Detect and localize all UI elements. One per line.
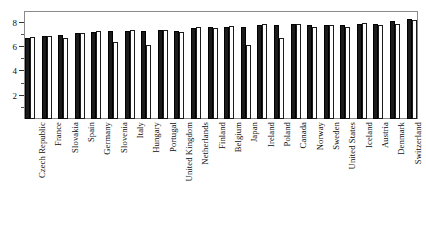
x-axis-label-cell: Finland bbox=[205, 122, 221, 238]
bar-group bbox=[324, 12, 334, 119]
x-axis-label-cell: Germany bbox=[90, 122, 106, 238]
bars-layer bbox=[25, 12, 417, 119]
bar-group bbox=[25, 12, 35, 119]
bar-series-2 bbox=[279, 38, 284, 119]
bar-series-2 bbox=[362, 23, 367, 119]
bar-series-2 bbox=[163, 30, 168, 119]
x-axis-label-cell: France bbox=[41, 122, 57, 238]
bar-group bbox=[108, 12, 118, 119]
y-tick-label: 8 bbox=[13, 18, 18, 27]
x-axis-label-cell: Italy bbox=[123, 122, 139, 238]
bar-series-2 bbox=[146, 45, 151, 119]
bar-group bbox=[390, 12, 400, 119]
bar-series-2 bbox=[113, 42, 118, 119]
x-axis-label-cell: Spain bbox=[74, 122, 90, 238]
x-axis-label-cell: Belgium bbox=[221, 122, 237, 238]
bar-series-2 bbox=[179, 32, 184, 119]
x-axis-label-cell: Iceland bbox=[352, 122, 368, 238]
bar-series-2 bbox=[296, 24, 301, 119]
bar-group bbox=[91, 12, 101, 119]
bar-chart: 2468 Czech RepublicFranceSlovakiaSpainGe… bbox=[0, 0, 426, 240]
x-axis-label-cell: Netherlands bbox=[188, 122, 204, 238]
bar-group bbox=[274, 12, 284, 119]
x-axis-label-cell: United States bbox=[335, 122, 351, 238]
y-tick-label: 6 bbox=[13, 43, 18, 52]
bar-series-2 bbox=[47, 36, 52, 119]
bar-group bbox=[291, 12, 301, 119]
bar-group bbox=[307, 12, 317, 119]
x-axis-label-cell: Japan bbox=[237, 122, 253, 238]
bar-group bbox=[141, 12, 151, 119]
x-axis-label-cell: Hungary bbox=[139, 122, 155, 238]
bar-series-2 bbox=[412, 20, 417, 119]
bar-group bbox=[241, 12, 251, 119]
y-axis: 2468 bbox=[0, 11, 24, 120]
bar-series-2 bbox=[196, 27, 201, 119]
x-axis-label-cell: Sweden bbox=[319, 122, 335, 238]
bar-series-2 bbox=[30, 37, 35, 119]
x-axis-label-cell: Denmark bbox=[384, 122, 400, 238]
bar-series-2 bbox=[312, 27, 317, 119]
x-axis-label-cell: Czech Republic bbox=[25, 122, 41, 238]
bar-series-2 bbox=[80, 33, 85, 119]
bar-group bbox=[224, 12, 234, 119]
bar-group bbox=[208, 12, 218, 119]
bar-series-2 bbox=[63, 38, 68, 119]
bar-group bbox=[407, 12, 417, 119]
x-axis-label-cell: Norway bbox=[303, 122, 319, 238]
x-axis-label: Switzerland bbox=[413, 122, 422, 164]
bar-group bbox=[42, 12, 52, 119]
bar-group bbox=[174, 12, 184, 119]
bar-series-2 bbox=[395, 24, 400, 119]
x-axis-label-cell: Slovakia bbox=[58, 122, 74, 238]
bar-series-2 bbox=[329, 25, 334, 119]
bar-series-2 bbox=[130, 30, 135, 119]
x-axis-label-cell: Portugal bbox=[156, 122, 172, 238]
bar-group bbox=[257, 12, 267, 119]
bar-series-2 bbox=[345, 27, 350, 119]
clipped-header-text bbox=[150, 0, 350, 7]
bar-group bbox=[191, 12, 201, 119]
bar-series-2 bbox=[229, 26, 234, 119]
bar-group bbox=[58, 12, 68, 119]
x-axis-label-cell: Canada bbox=[286, 122, 302, 238]
bar-series-2 bbox=[96, 31, 101, 119]
x-axis-label-cell: Switzerland bbox=[401, 122, 417, 238]
bar-group bbox=[75, 12, 85, 119]
bar-series-2 bbox=[246, 45, 251, 119]
bar-group bbox=[357, 12, 367, 119]
bar-group bbox=[340, 12, 350, 119]
bar-group bbox=[158, 12, 168, 119]
bar-group bbox=[125, 12, 135, 119]
x-axis-label-cell: Austria bbox=[368, 122, 384, 238]
bar-series-2 bbox=[262, 24, 267, 119]
bar-series-2 bbox=[213, 28, 218, 119]
bar-series-2 bbox=[378, 25, 383, 119]
x-axis-label-cell: Ireland bbox=[254, 122, 270, 238]
x-axis-label-cell: Poland bbox=[270, 122, 286, 238]
x-axis-label-cell: Slovenia bbox=[107, 122, 123, 238]
x-axis-label-cell: United Kingdom bbox=[172, 122, 188, 238]
bar-group bbox=[373, 12, 383, 119]
y-tick-label: 2 bbox=[13, 91, 18, 100]
x-axis-labels: Czech RepublicFranceSlovakiaSpainGermany… bbox=[25, 122, 417, 238]
y-tick-label: 4 bbox=[13, 67, 18, 76]
